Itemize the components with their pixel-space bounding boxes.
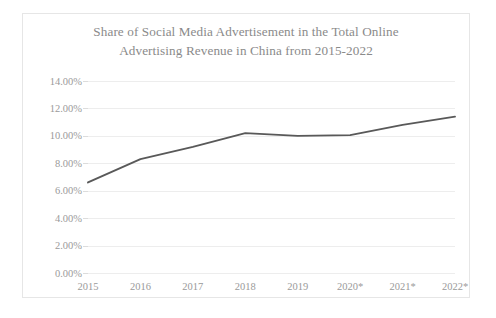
plot-area [88, 81, 455, 273]
y-axis-tick-label: 0.00% [28, 268, 82, 279]
x-axis-tick-label: 2016 [112, 281, 168, 293]
series-polyline [88, 117, 455, 183]
x-axis-tick-label: 2022* [427, 281, 483, 293]
y-axis-tick-label: 4.00% [28, 213, 82, 224]
y-axis-tick-label: 2.00% [28, 240, 82, 251]
y-axis-tick-label: 8.00% [28, 158, 82, 169]
x-axis-tick-label: 2020* [322, 281, 378, 293]
y-axis-tick-label: 6.00% [28, 185, 82, 196]
x-axis-tick-label: 2021* [375, 281, 431, 293]
y-axis-tick-label: 10.00% [28, 130, 82, 141]
x-axis-tick-label: 2015 [60, 281, 116, 293]
y-axis-tick-label: 12.00% [28, 103, 82, 114]
chart-title-line-1: Share of Social Media Advertisement in t… [34, 22, 458, 41]
chart-figure: Share of Social Media Advertisement in t… [0, 0, 496, 318]
line-series [88, 81, 455, 273]
x-axis-tick-label: 2017 [165, 281, 221, 293]
chart-title: Share of Social Media Advertisement in t… [34, 22, 458, 60]
y-axis-tick-label: 14.00% [28, 76, 82, 87]
x-axis-labels: 201520162017201820192020*2021*2022* [88, 281, 455, 295]
y-axis-labels: 0.00%2.00%4.00%6.00%8.00%10.00%12.00%14.… [22, 81, 82, 273]
gridline-0.00% [88, 273, 455, 274]
x-axis-tick-label: 2019 [270, 281, 326, 293]
x-axis-tick-label: 2018 [217, 281, 273, 293]
chart-title-line-2: Advertising Revenue in China from 2015-2… [34, 41, 458, 60]
